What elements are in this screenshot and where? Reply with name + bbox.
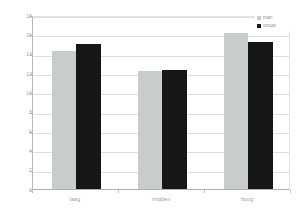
chart-legend: man vrouw <box>255 13 297 31</box>
gridline <box>33 36 289 37</box>
y-axis-tick-label: 8 <box>6 110 32 115</box>
bar-hoog-vrouw <box>248 42 273 189</box>
bar-midden-vrouw <box>162 70 187 189</box>
y-axis-tick-label: 12 <box>6 72 32 77</box>
y-axis-tick-label: 10 <box>6 91 32 96</box>
plot-area <box>32 16 290 190</box>
y-axis-tick-label: 2 <box>6 168 32 173</box>
x-axis-tick-mark <box>32 190 33 193</box>
bar-midden-man <box>138 71 163 189</box>
y-axis-tick-label: 0 <box>6 188 32 193</box>
y-axis-tick-label: 16 <box>6 33 32 38</box>
y-axis-tick-label: 4 <box>6 149 32 154</box>
x-axis-tick-label-midden: midden <box>131 196 191 202</box>
x-axis-tick-label-laag: laag <box>45 196 105 202</box>
y-axis-tick-label: 18 <box>6 14 32 19</box>
x-axis-tick-mark <box>204 190 205 193</box>
bar-laag-vrouw <box>76 44 101 189</box>
bar-laag-man <box>52 51 77 189</box>
y-axis: 024681012141618 <box>0 0 32 217</box>
legend-item-man: man <box>257 14 295 21</box>
x-axis-tick-label-hoog: hoog <box>217 196 277 202</box>
x-axis-tick-mark <box>118 190 119 193</box>
y-axis-tick-label: 14 <box>6 52 32 57</box>
legend-item-vrouw: vrouw <box>257 22 295 29</box>
bar-chart: 024681012141618 laagmiddenhoog man vrouw <box>0 0 302 217</box>
gridline <box>33 17 289 18</box>
legend-swatch-vrouw-icon <box>257 24 261 28</box>
y-axis-tick-label: 6 <box>6 130 32 135</box>
bar-hoog-man <box>224 33 249 189</box>
x-axis-tick-mark <box>290 190 291 193</box>
legend-label-man: man <box>263 15 272 20</box>
legend-label-vrouw: vrouw <box>263 23 276 28</box>
legend-swatch-man-icon <box>257 16 261 20</box>
